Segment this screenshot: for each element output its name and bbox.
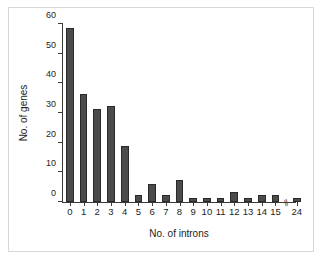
bar-1 (80, 94, 88, 202)
y-axis-tick (58, 171, 63, 172)
bar-0 (66, 28, 74, 202)
figure-canvas: 0102030405060012345678910111213141524// … (0, 0, 324, 261)
plot-area: 0102030405060012345678910111213141524// (62, 24, 296, 203)
x-axis-tick-label: 12 (229, 207, 240, 217)
y-axis-tick (58, 23, 63, 24)
y-axis-tick (58, 82, 63, 83)
x-axis-title: No. of introns (62, 228, 296, 239)
x-axis-tick-label: 15 (270, 207, 281, 217)
x-axis-tick-label: 5 (136, 207, 141, 217)
y-axis-tick-label: 50 (46, 40, 56, 49)
y-axis-tick-label: 30 (46, 100, 56, 109)
bar-3 (107, 106, 115, 202)
y-axis-title: No. of genes (18, 85, 29, 142)
x-axis-tick-label: 10 (202, 207, 213, 217)
x-axis-tick-label: 9 (191, 207, 196, 217)
x-axis-tick-label: 8 (177, 207, 182, 217)
x-axis-tick-label: 11 (216, 207, 226, 217)
x-axis-tick-label: 13 (243, 207, 254, 217)
bar-6 (148, 184, 156, 202)
bar-8 (176, 180, 184, 202)
y-axis-tick (58, 112, 63, 113)
x-axis-tick-label: 14 (256, 207, 267, 217)
y-axis-tick-label: 40 (46, 70, 56, 79)
y-axis-tick (58, 53, 63, 54)
y-axis-tick-label: 20 (46, 129, 56, 138)
x-axis-tick-label: 0 (67, 207, 72, 217)
x-axis-tick-label: 3 (108, 207, 113, 217)
bar-5 (135, 195, 143, 202)
y-axis-tick-label: 0 (51, 189, 56, 198)
x-axis-tick-label: 2 (95, 207, 100, 217)
bar-15 (272, 195, 280, 202)
x-axis-tick-label: 24 (291, 207, 302, 217)
x-axis-tick-label: 4 (122, 207, 127, 217)
x-axis-tick-label: 1 (81, 207, 86, 217)
bar-4 (121, 146, 129, 202)
bar-14 (258, 195, 266, 202)
bar-2 (93, 109, 101, 202)
bar-7 (162, 195, 170, 202)
x-axis-tick-label: 6 (149, 207, 154, 217)
y-axis-tick-label: 60 (46, 11, 56, 20)
y-axis-tick (58, 201, 63, 202)
bar-12 (230, 192, 238, 202)
x-axis-tick-label: 7 (163, 207, 168, 217)
y-axis-tick (58, 142, 63, 143)
y-axis-tick-label: 10 (46, 159, 56, 168)
